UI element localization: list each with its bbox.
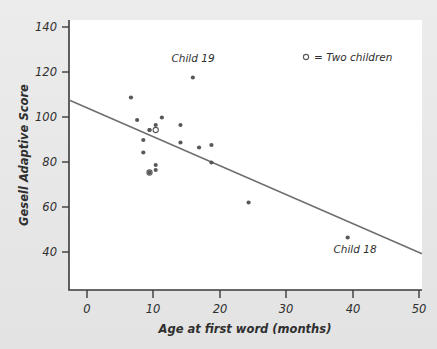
data-point [141,150,145,154]
x-tick-label: 20 [213,302,228,316]
data-point [191,75,195,79]
y-axis-tick-labels: 140 120 100 80 60 40 [35,20,57,259]
y-tick-label: 80 [42,155,57,169]
data-point [178,140,182,144]
data-point [160,115,164,119]
y-tick-label: 140 [35,20,57,34]
x-tick-label: 0 [83,302,90,316]
y-tick-label: 100 [35,110,57,124]
data-point [178,123,182,127]
data-point [147,170,151,174]
data-point [246,200,250,204]
data-point [197,145,201,149]
legend: = Two children [303,51,392,63]
x-tick-label: 30 [279,302,294,316]
x-axis-title: Age at first word (months) [158,322,332,336]
legend-label: = Two children [314,51,392,63]
y-axis-title: Gesell Adaptive Score [17,84,31,226]
data-point [346,235,350,239]
chart-canvas: 140 120 100 80 60 40 0 10 20 30 40 50 Ag… [0,0,437,349]
data-point [209,160,213,164]
data-point [141,138,145,142]
data-point [135,118,139,122]
annotation-child-18: Child 18 [333,243,377,255]
y-tick-label: 120 [35,65,57,79]
x-tick-label: 10 [146,302,161,316]
x-axis-tick-labels: 0 10 20 30 40 50 [83,302,426,316]
x-tick-label: 50 [412,302,427,316]
data-point [154,163,158,167]
scatter-plot-figure: 140 120 100 80 60 40 0 10 20 30 40 50 Ag… [0,0,437,349]
data-point [129,95,133,99]
y-axis-ticks [62,27,69,252]
y-tick-label: 40 [42,245,57,259]
data-point [154,123,158,127]
data-point [209,143,213,147]
y-tick-label: 60 [42,200,57,214]
legend-open-circle-icon [303,54,308,59]
data-point-two-children [153,127,158,132]
x-tick-label: 40 [346,302,361,316]
data-point [154,168,158,172]
x-axis-ticks [87,290,419,298]
annotation-child-19: Child 19 [171,52,215,64]
data-point [147,128,151,132]
